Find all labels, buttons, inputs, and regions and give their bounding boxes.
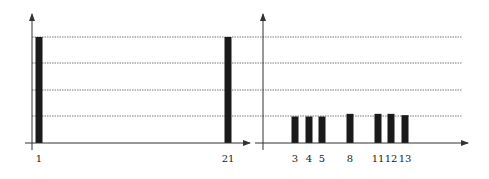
- bar-charts: 121 3458111213: [0, 0, 489, 179]
- x-tick-label: 21: [222, 153, 235, 164]
- bar-5: [319, 117, 326, 144]
- bar-1: [36, 37, 43, 143]
- left-bar-chart: 121: [25, 14, 250, 164]
- x-tick-label: 5: [319, 153, 325, 164]
- x-tick-label: 11: [372, 153, 385, 164]
- bar-3: [292, 117, 299, 144]
- bar-8: [347, 114, 354, 143]
- x-tick-label: 13: [399, 153, 412, 164]
- bar-21: [225, 37, 232, 143]
- x-tick-label: 3: [292, 153, 298, 164]
- x-tick-label: 1: [36, 153, 42, 164]
- x-tick-label: 8: [347, 153, 353, 164]
- bar-11: [375, 114, 382, 143]
- bar-4: [306, 117, 313, 144]
- x-tick-label: 12: [385, 153, 398, 164]
- x-tick-label: 4: [306, 153, 312, 164]
- right-bar-chart: 3458111213: [250, 14, 468, 164]
- bar-13: [402, 115, 409, 143]
- bar-12: [388, 114, 395, 143]
